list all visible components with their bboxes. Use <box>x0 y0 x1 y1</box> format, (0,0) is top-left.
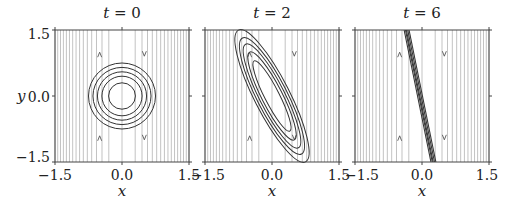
y-tick-mid: 0.0 <box>10 89 50 105</box>
y-tick-top: 1.5 <box>10 26 50 42</box>
x-tick-left-p1: −1.5 <box>191 167 225 183</box>
plot-panel-t6 <box>355 30 489 162</box>
x-tick-mid-p1: 0.0 <box>261 167 283 183</box>
x-tick-left-p0: −1.5 <box>38 167 72 183</box>
x-axis-label-p1: x <box>268 182 276 200</box>
panel-title-t6: t = 6 <box>355 4 489 22</box>
panel-title-t0: t = 0 <box>55 4 189 22</box>
x-axis-label-p2: x <box>418 182 426 200</box>
plot-panel-t0 <box>55 30 189 162</box>
x-tick-right-p2: 1.5 <box>476 167 498 183</box>
y-tick-bottom: −1.5 <box>10 149 50 165</box>
panel-title-t2: t = 2 <box>205 4 339 22</box>
x-tick-mid-p0: 0.0 <box>111 167 133 183</box>
x-tick-left-p2: −1.5 <box>345 167 379 183</box>
plot-panel-t2 <box>205 30 339 162</box>
x-tick-mid-p2: 0.0 <box>411 167 433 183</box>
x-axis-label-p0: x <box>118 182 126 200</box>
